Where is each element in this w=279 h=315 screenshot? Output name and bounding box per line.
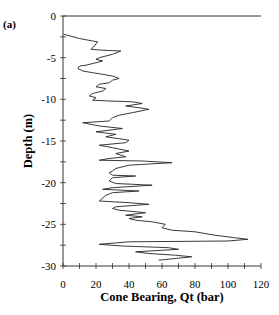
y-tick-label: -20 [41, 177, 56, 189]
x-tick-label: 100 [220, 278, 237, 290]
axes [63, 16, 261, 266]
x-tick-label: 60 [157, 278, 169, 290]
x-tick-label: 20 [91, 278, 103, 290]
panel-label: (a) [3, 18, 16, 31]
y-tick-label: -15 [41, 135, 56, 147]
y-tick-label: 0 [51, 10, 57, 22]
y-tick-label: -30 [41, 260, 56, 272]
x-tick-label: 40 [124, 278, 136, 290]
y-tick-label: -10 [41, 93, 56, 105]
x-tick-label: 0 [60, 278, 66, 290]
x-tick-label: 120 [253, 278, 270, 290]
x-axis-title: Cone Bearing, Qt (bar) [100, 290, 224, 304]
y-axis-title: Depth (m) [21, 114, 35, 169]
y-tick-label: -5 [47, 52, 57, 64]
axis-ticks: 0204060801001200-5-10-15-20-25-30 [41, 10, 269, 290]
cone-bearing-chart: (a) 0204060801001200-5-10-15-20-25-30 Co… [0, 0, 279, 315]
x-tick-label: 80 [190, 278, 202, 290]
cone-bearing-line [64, 34, 248, 260]
y-tick-label: -25 [41, 218, 56, 230]
